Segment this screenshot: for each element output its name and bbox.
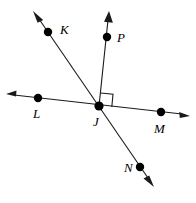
- line-k-j-n-segment: [39, 19, 148, 178]
- point-label-n: N: [123, 160, 134, 175]
- point-dot-l: [34, 94, 42, 102]
- point-dot-n: [136, 163, 144, 171]
- point-dot-p: [103, 33, 111, 41]
- arrow-head-beyond-p: [104, 11, 113, 23]
- arrow-head-toward-l: [6, 90, 17, 96]
- point-dot-j: [94, 101, 103, 110]
- point-label-k: K: [59, 22, 70, 37]
- point-label-l: L: [32, 106, 40, 121]
- point-dot-k: [44, 28, 52, 36]
- geometry-diagram-canvas: K P L J M N: [0, 0, 196, 203]
- point-label-m: M: [153, 121, 166, 136]
- point-dot-m: [157, 108, 165, 116]
- arrow-head-beyond-n: [144, 176, 155, 187]
- arrow-head-beyond-m: [179, 112, 190, 118]
- geometry-figure: K P L J M N: [0, 0, 196, 203]
- point-label-p: P: [116, 30, 125, 45]
- ray-j-p: [99, 11, 113, 106]
- arrow-head-toward-k: [33, 11, 43, 23]
- point-label-j: J: [93, 114, 100, 129]
